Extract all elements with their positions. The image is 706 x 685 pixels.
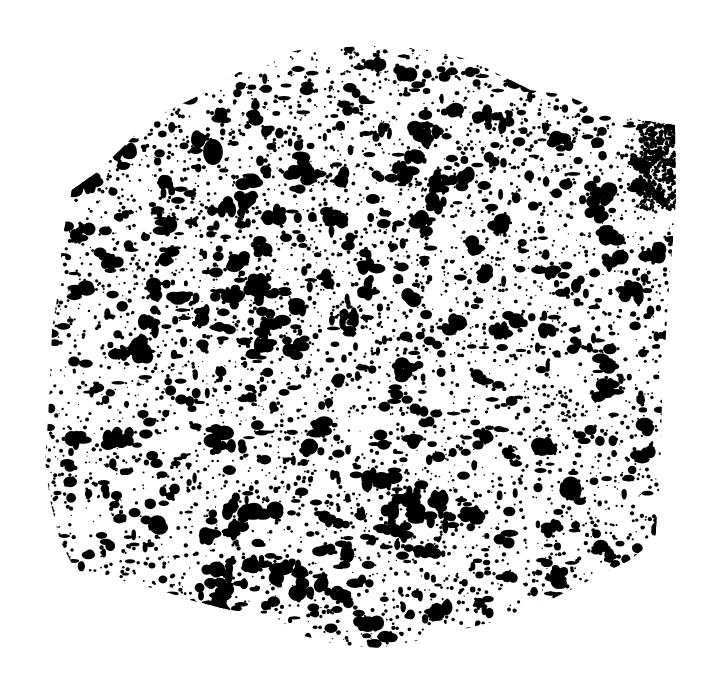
rock-cross-section [0,0,706,685]
rock-specimen-image: Binarized black-and-white cross-section … [0,0,706,685]
